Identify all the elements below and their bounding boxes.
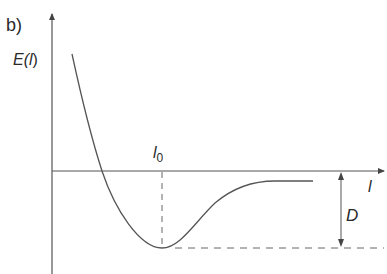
potential-energy-diagram: b) E(l) l l0 D xyxy=(0,0,387,274)
y-axis-label: E(l) xyxy=(13,51,38,68)
equilibrium-label: l0 xyxy=(153,144,164,165)
potential-curve xyxy=(72,54,313,248)
depth-arrow-down-icon xyxy=(338,239,344,247)
x-axis-label: l xyxy=(368,178,372,195)
depth-arrow-up-icon xyxy=(338,172,344,180)
panel-label: b) xyxy=(6,15,22,35)
depth-label: D xyxy=(346,206,358,225)
